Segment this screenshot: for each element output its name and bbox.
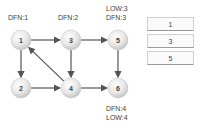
node-5-dfn-label: DFN:3 (106, 14, 126, 21)
node-3-dfn-label: DFN:2 (58, 14, 78, 21)
svg-text:1: 1 (19, 37, 23, 44)
node-5: 5 (108, 30, 128, 50)
edge-4-1 (29, 48, 64, 81)
node-1: 1 (11, 30, 31, 50)
node-1-dfn-label: DFN:1 (8, 14, 28, 21)
stack-item: 1 (147, 17, 194, 31)
node-4: 4 (61, 78, 81, 98)
node-6-low-label: LOW:4 (106, 114, 128, 121)
stack: 1 3 5 (147, 17, 194, 68)
svg-text:6: 6 (116, 85, 120, 92)
svg-text:4: 4 (69, 85, 73, 92)
stack-item: 5 (147, 51, 194, 65)
node-3: 3 (61, 30, 81, 50)
node-5-low-label: LOW:3 (106, 5, 128, 12)
node-2: 2 (11, 78, 31, 98)
node-6-dfn-label: DFN:4 (106, 105, 126, 112)
svg-text:3: 3 (69, 37, 73, 44)
node-6: 6 (108, 78, 128, 98)
svg-text:5: 5 (116, 37, 120, 44)
svg-text:2: 2 (19, 85, 23, 92)
nodes: 135246 (11, 30, 128, 98)
stack-item: 3 (147, 34, 194, 48)
